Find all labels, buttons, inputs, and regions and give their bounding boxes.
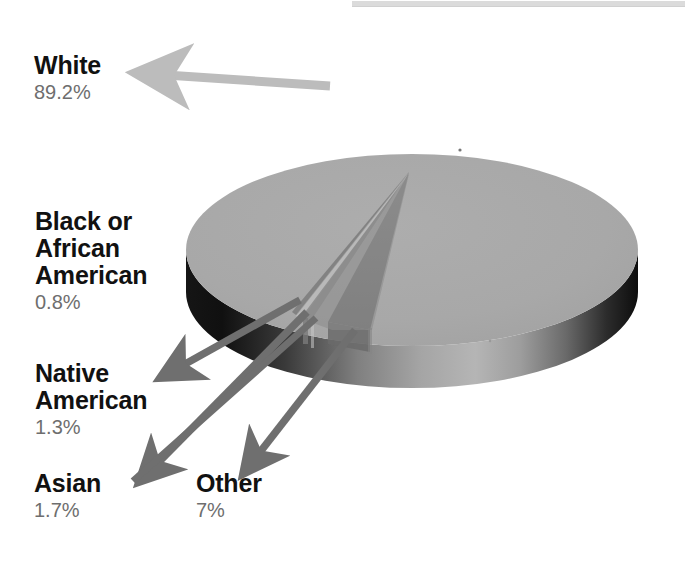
arrow-white	[136, 73, 330, 86]
category-name-black-african-american: Black or African American	[35, 208, 147, 289]
pie-disc	[186, 148, 638, 388]
category-name-asian: Asian	[34, 470, 101, 497]
slice-wall-c	[368, 328, 372, 354]
callout-label-other: Other 7%	[196, 470, 262, 522]
category-percent-native-american: 1.3%	[35, 415, 147, 439]
category-percent-white: 89.2%	[34, 80, 101, 104]
category-name-white: White	[34, 52, 101, 79]
callout-label-native-american: Native American 1.3%	[35, 360, 147, 439]
callout-label-black-african-american: Black or African American 0.8%	[35, 208, 147, 314]
category-percent-asian: 1.7%	[34, 498, 101, 522]
scan-speck-2	[489, 340, 491, 342]
category-percent-black-african-american: 0.8%	[35, 290, 147, 314]
pie-top-face	[186, 154, 638, 346]
category-percent-other: 7%	[196, 498, 262, 522]
callout-label-white: White 89.2%	[34, 52, 101, 104]
pie-chart-figure: White 89.2% Black or African American 0.…	[0, 0, 685, 580]
scan-speck	[458, 148, 461, 151]
category-name-native-american: Native American	[35, 360, 147, 414]
callout-label-asian: Asian 1.7%	[34, 470, 101, 522]
category-name-other: Other	[196, 470, 262, 497]
